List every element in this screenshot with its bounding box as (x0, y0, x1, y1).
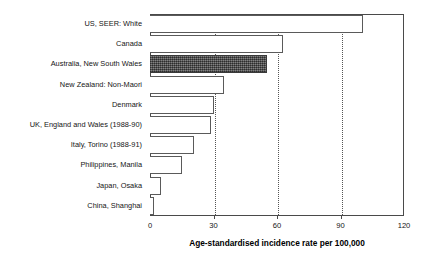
bar (150, 156, 182, 174)
bar-row (150, 14, 404, 34)
category-label: Denmark (0, 95, 146, 115)
bar (150, 35, 283, 53)
bar (150, 15, 363, 33)
bar (150, 96, 214, 114)
bar (150, 177, 161, 195)
x-tick-mark (277, 216, 278, 219)
x-tick-label: 90 (336, 221, 344, 230)
x-tick-mark (341, 216, 342, 219)
bar (150, 197, 154, 215)
bar-row (150, 115, 404, 135)
bar-row (150, 54, 404, 74)
bar (150, 136, 194, 154)
x-tick-label: 120 (398, 221, 411, 230)
bar-row (150, 34, 404, 54)
x-tick-label: 0 (148, 221, 152, 230)
category-label: Japan, Osaka (0, 176, 146, 196)
bar-row (150, 95, 404, 115)
category-axis-labels: US, SEER: WhiteCanadaAustralia, New Sout… (0, 14, 146, 216)
x-axis: 0306090120 (150, 216, 404, 217)
bar-row (150, 135, 404, 155)
bar-row (150, 196, 404, 216)
x-tick-label: 30 (209, 221, 217, 230)
category-label: Philippines, Manila (0, 155, 146, 175)
category-label: Italy, Torino (1988-91) (0, 135, 146, 155)
bar (150, 55, 267, 73)
category-label: China, Shanghai (0, 196, 146, 216)
x-tick-mark (214, 216, 215, 219)
bar-series (150, 14, 404, 216)
category-label: US, SEER: White (0, 14, 146, 34)
category-label: UK, England and Wales (1988-90) (0, 115, 146, 135)
x-axis-title: Age-standardised incidence rate per 100,… (150, 238, 404, 248)
bar (150, 116, 211, 134)
bar (150, 76, 224, 94)
bar-chart-figure: US, SEER: WhiteCanadaAustralia, New Sout… (0, 0, 426, 264)
category-label: Australia, New South Wales (0, 54, 146, 74)
bar-row (150, 75, 404, 95)
bar-row (150, 176, 404, 196)
x-tick-label: 60 (273, 221, 281, 230)
category-label: Canada (0, 34, 146, 54)
category-label: New Zealand: Non-Maori (0, 75, 146, 95)
bar-row (150, 155, 404, 175)
